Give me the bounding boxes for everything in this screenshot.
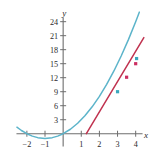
plot-canvas: −2−11234 3691215182124 x y [0,0,161,166]
x-tick-label: 3 [115,140,119,149]
x-axis-tick-labels: −2−11234 [23,140,138,149]
y-tick-label: 12 [50,74,58,83]
math-figure-parabola-secant: −2−11234 3691215182124 x y [0,0,161,166]
y-tick-label: 24 [50,18,58,27]
x-tick-label: −2 [23,140,32,149]
x-tick-label: 4 [134,140,138,149]
y-axis-label: y [61,8,66,18]
x-tick-label: −1 [41,140,50,149]
x-axis-label: x [143,130,148,140]
axes-group [17,18,142,146]
y-tick-label: 6 [54,102,58,111]
y-tick-label: 15 [50,60,58,69]
y-axis-tick-labels: 3691215182124 [50,18,58,125]
y-tick-label: 9 [54,88,58,97]
x-tick-label: 2 [97,140,101,149]
x-tick-label: 1 [79,140,83,149]
point-on-curve-teal-lower [116,90,119,93]
secant-line [86,38,143,134]
point-on-curve-magenta-upper [134,62,137,65]
point-on-curve-teal-upper [135,57,138,60]
data-point-markers [116,57,138,93]
point-on-curve-magenta-mid [125,76,128,79]
y-tick-label: 18 [50,46,58,55]
y-tick-label: 3 [54,116,58,125]
y-tick-label: 21 [50,32,58,41]
